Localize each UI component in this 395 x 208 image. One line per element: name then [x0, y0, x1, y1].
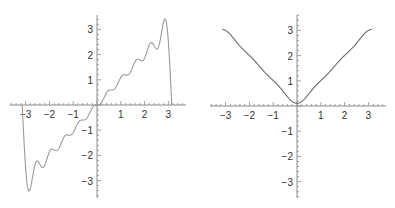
y-tick-label: −1 — [282, 126, 294, 137]
y-tick-label: 1 — [87, 75, 93, 86]
x-tick-label: −1 — [267, 110, 279, 121]
y-tick-label: −3 — [82, 176, 94, 187]
y-tick-label: 1 — [287, 76, 293, 87]
y-tick-label: −2 — [82, 150, 94, 161]
x-tick-label: −2 — [244, 110, 256, 121]
y-tick-label: 2 — [287, 51, 293, 62]
chart-svg: −3−2−1123−3−2−1123 — [0, 0, 200, 208]
x-tick-label: −3 — [220, 110, 232, 121]
x-tick-label: −1 — [67, 109, 79, 120]
x-tick-label: −3 — [20, 109, 32, 120]
y-tick-label: 2 — [87, 50, 93, 61]
x-tick-label: 3 — [366, 110, 372, 121]
x-tick-label: 2 — [342, 110, 348, 121]
x-tick-label: 1 — [318, 110, 324, 121]
y-tick-label: −1 — [82, 125, 94, 136]
abs-fourier-plot: −3−2−1123−3−2−1123 — [200, 0, 395, 208]
y-tick-label: −3 — [282, 177, 294, 188]
y-tick-label: 3 — [287, 25, 293, 36]
sawtooth-fourier-plot: −3−2−1123−3−2−1123 — [0, 0, 200, 208]
y-tick-label: 3 — [87, 24, 93, 35]
x-tick-label: 3 — [166, 109, 172, 120]
x-tick-label: −2 — [44, 109, 56, 120]
chart-svg: −3−2−1123−3−2−1123 — [200, 0, 395, 208]
y-tick-label: −2 — [282, 151, 294, 162]
x-tick-label: 2 — [142, 109, 148, 120]
x-tick-label: 1 — [118, 109, 124, 120]
